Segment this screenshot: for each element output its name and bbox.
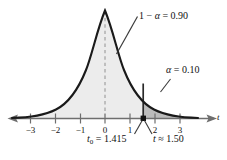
critical-value-annotation: t0 = 1.415 [87,134,126,146]
t-distribution-figure: −3 −2 −1 0 1 2 3 t 1 − α = 0.90 α = 0.10… [0,0,227,160]
x-axis-label: t [217,113,220,122]
x-tick-label-minus3: −3 [21,126,41,135]
test-statistic-annotation: t ≈ 1.50 [153,134,184,144]
confidence-annotation: 1 − α = 0.90 [139,11,188,21]
x-tick-label-minus2: −2 [46,126,66,135]
confidence-prefix: 1 − [139,10,155,21]
confidence-value: = 0.90 [160,10,188,21]
alpha-leader-line [161,79,171,92]
alpha-value: = 0.10 [171,64,199,75]
t-stat-value: ≈ 1.50 [156,133,184,144]
critical-value-marker [141,116,146,121]
t0-value: = 1.415 [93,133,126,144]
alpha-annotation: α = 0.10 [166,65,199,75]
confidence-leader-line [117,17,138,55]
